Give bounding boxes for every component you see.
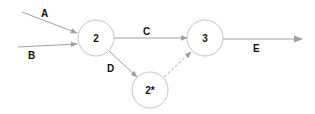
edge-b-arrow xyxy=(18,44,77,47)
node-2-star: 2* xyxy=(132,72,168,108)
edge-e-label: E xyxy=(253,43,260,54)
node-3-label: 3 xyxy=(202,33,208,44)
edge-c: C xyxy=(114,26,187,38)
node-3: 3 xyxy=(187,20,223,56)
edge-dashed xyxy=(164,52,191,77)
edge-dashed-arrow xyxy=(164,52,191,77)
node-2-star-label: 2* xyxy=(145,85,155,96)
edge-a-label: A xyxy=(41,8,48,19)
edge-a: A xyxy=(22,8,77,33)
flow-diagram: A B C D E 2 3 2* xyxy=(0,0,315,114)
edge-c-label: C xyxy=(143,26,150,37)
edge-d-label: D xyxy=(107,63,114,74)
edge-a-arrow xyxy=(22,12,77,33)
edge-b-label: B xyxy=(28,50,35,61)
edge-d: D xyxy=(107,51,137,77)
edge-b: B xyxy=(18,44,77,61)
edge-e: E xyxy=(223,39,302,54)
node-2-label: 2 xyxy=(93,33,99,44)
node-2: 2 xyxy=(78,20,114,56)
